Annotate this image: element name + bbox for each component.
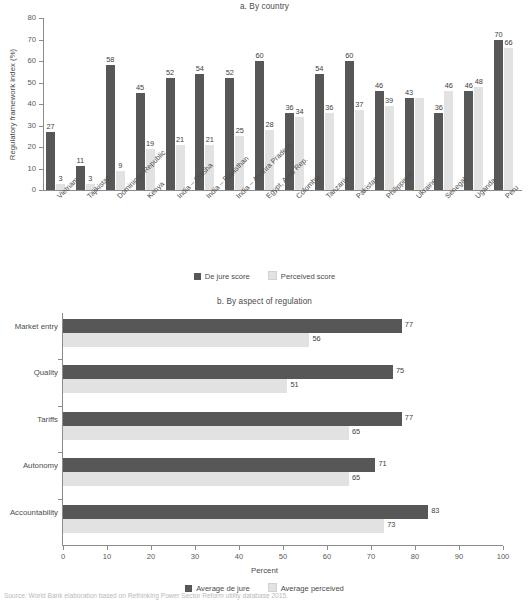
chart-bar-perceived (444, 91, 453, 190)
chart-value-label: 71 (378, 459, 386, 468)
chart-bar-group: 7165 (63, 452, 503, 498)
chart-value-label: 83 (431, 506, 439, 515)
chart-value-label: 60 (253, 51, 266, 60)
panel-b-y-tick (58, 499, 63, 500)
panel-b-x-tick (415, 546, 416, 550)
chart-value-label: 58 (104, 55, 117, 64)
chart-bar-de-jure (345, 61, 354, 190)
chart-bar-perceived (385, 106, 394, 190)
chart-value-label: 34 (293, 107, 306, 116)
chart-bar-average-de-jure (63, 319, 402, 333)
panel-b-x-tick (195, 546, 196, 550)
panel-b-legend-label: Average perceived (281, 584, 344, 593)
chart-bar-group: 4639 (373, 18, 403, 190)
panel-a-legend: De jure scorePerceived score (0, 271, 529, 281)
chart-value-label: 36 (323, 103, 336, 112)
chart-bar-average-de-jure (63, 365, 393, 379)
chart-value-label: 3 (54, 174, 67, 183)
panel-b-y-tick (58, 452, 63, 453)
chart-bar-perceived (474, 87, 483, 190)
chart-bar-group: 3646 (432, 18, 462, 190)
panel-b-x-tick (151, 546, 152, 550)
panel-b-x-tick-label: 80 (405, 552, 425, 561)
chart-bar-average-perceived (63, 426, 349, 440)
chart-bar-group: 7756 (63, 313, 503, 359)
panel-a-y-axis-label: Regulatory framework index (%) (8, 25, 17, 185)
chart-value-label: 9 (114, 161, 127, 170)
chart-bar-de-jure (464, 91, 473, 190)
panel-b-y-tick (58, 406, 63, 407)
panel-a-y-tick-label: 10 (20, 164, 36, 173)
panel-a-y-tick (39, 18, 43, 19)
chart-value-label: 11 (74, 156, 87, 165)
panel-b-x-tick (107, 546, 108, 550)
panel-a-legend-label: Perceived score (281, 272, 335, 281)
panel-b-x-tick (239, 546, 240, 550)
panel-a-title: a. By country (0, 2, 529, 11)
chart-bar-perceived (355, 110, 364, 190)
panel-b-legend-swatch (268, 583, 277, 592)
panel-b-x-tick (63, 546, 64, 550)
panel-b-x-tick-label: 90 (449, 552, 469, 561)
chart-value-label: 27 (44, 122, 57, 131)
chart-value-label: 43 (403, 88, 416, 97)
panel-b-x-tick (327, 546, 328, 550)
panel-by-aspect: b. By aspect of regulation 7756755177657… (0, 295, 529, 601)
panel-a-legend-item: Perceived score (268, 271, 335, 281)
chart-bar-group: 43 (403, 18, 433, 190)
chart-bar-average-perceived (63, 333, 309, 347)
chart-bar-group: 5221 (164, 18, 194, 190)
chart-value-label: 28 (263, 120, 276, 129)
chart-bar-group: 273 (44, 18, 74, 190)
panel-a-y-tick (39, 104, 43, 105)
panel-a-y-tick (39, 126, 43, 127)
panel-a-y-tick-label: 0 (20, 185, 36, 194)
chart-bar-average-de-jure (63, 412, 402, 426)
panel-b-x-tick-label: 30 (185, 552, 205, 561)
panel-b-x-tick-label: 100 (493, 552, 513, 561)
chart-bar-group: 7066 (492, 18, 522, 190)
panel-a-y-tick-label: 40 (20, 99, 36, 108)
chart-category-label: Autonomy (0, 461, 58, 470)
chart-bar-perceived (504, 48, 513, 190)
chart-value-label: 54 (193, 64, 206, 73)
panel-b-x-tick-label: 60 (317, 552, 337, 561)
panel-a-y-tick (39, 61, 43, 62)
chart-value-label: 46 (373, 81, 386, 90)
panel-a-y-tick (39, 190, 43, 191)
chart-value-label: 21 (203, 135, 216, 144)
panel-a-y-tick (39, 147, 43, 148)
panel-a-legend-item: De jure score (194, 272, 250, 281)
panel-a-legend-swatch (194, 273, 201, 280)
chart-value-label: 77 (405, 413, 413, 422)
chart-category-label: Quality (0, 368, 58, 377)
chart-value-label: 65 (352, 473, 360, 482)
chart-bar-average-perceived (63, 519, 384, 533)
chart-bar-average-perceived (63, 472, 349, 486)
chart-bar-group: 6037 (343, 18, 373, 190)
chart-bar-de-jure (375, 91, 384, 190)
chart-bar-perceived (325, 113, 334, 190)
panel-a-y-tick-label: 20 (20, 142, 36, 151)
panel-b-title: b. By aspect of regulation (0, 297, 529, 306)
chart-value-label: 39 (383, 96, 396, 105)
chart-bar-group: 7551 (63, 359, 503, 405)
panel-a-plot-area: 2731135894519522154215225602836345436603… (44, 18, 522, 190)
chart-bar-group: 7765 (63, 406, 503, 452)
chart-value-label: 48 (472, 77, 485, 86)
panel-b-x-tick (371, 546, 372, 550)
chart-value-label: 37 (353, 100, 366, 109)
panel-a-legend-label: De jure score (205, 272, 250, 281)
panel-b-x-tick (459, 546, 460, 550)
panel-a-y-tick-label: 70 (20, 35, 36, 44)
panel-b-x-tick-label: 0 (53, 552, 73, 561)
chart-value-label: 52 (223, 68, 236, 77)
chart-bar-perceived (295, 117, 304, 190)
chart-value-label: 19 (144, 139, 157, 148)
panel-b-x-tick (503, 546, 504, 550)
chart-bar-group: 8373 (63, 499, 503, 545)
chart-value-label: 73 (387, 520, 395, 529)
panel-a-y-tick-label: 80 (20, 13, 36, 22)
panel-b-x-tick-label: 40 (229, 552, 249, 561)
panel-b-plot-area: 77567551776571658373 (63, 313, 503, 545)
